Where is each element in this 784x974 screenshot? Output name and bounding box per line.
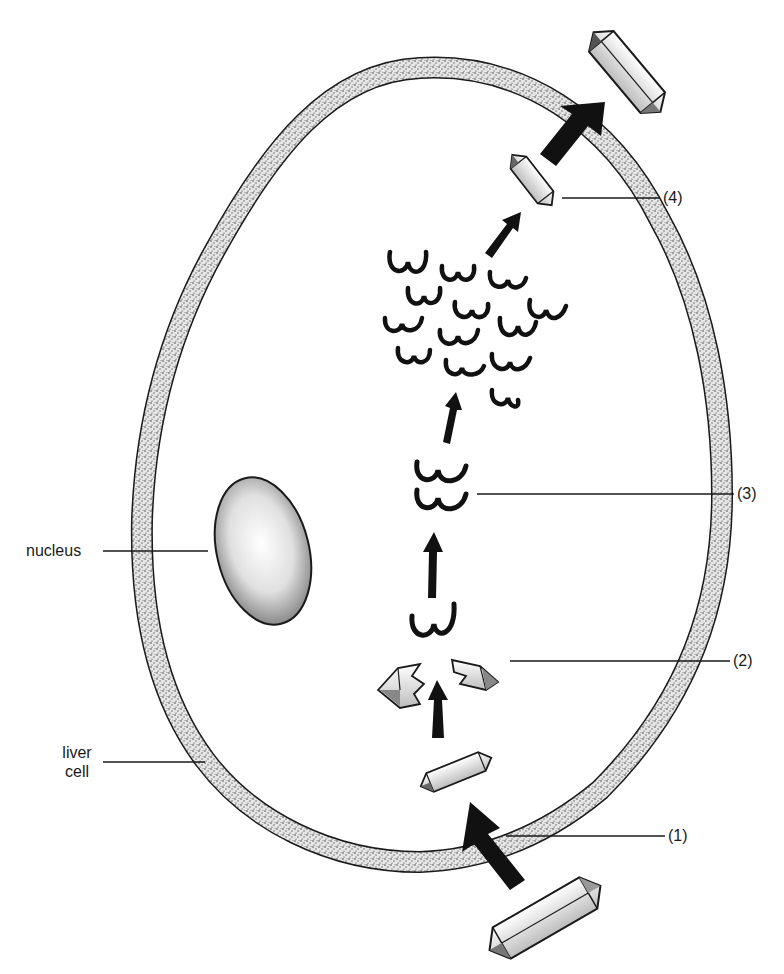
step2-label: (2)	[733, 651, 753, 670]
arrow-crystal-to-break	[428, 680, 448, 738]
cell-membrane	[142, 68, 722, 862]
released-chain	[412, 604, 454, 635]
liver-cell-label-line1: liver	[54, 743, 100, 762]
chain-pair	[417, 462, 466, 509]
step4-label: (4)	[663, 188, 683, 207]
broken-crystal-right	[452, 660, 498, 690]
broken-crystal-left	[378, 664, 424, 708]
arrow-many-to-crystal	[485, 212, 521, 258]
external-crystal	[481, 870, 610, 965]
nucleus-label: nucleus	[26, 541, 81, 560]
liver-cell-diagram	[0, 0, 784, 974]
liver-cell-label-line2: cell	[54, 762, 100, 781]
internal-crystal	[417, 748, 495, 795]
step1-label: (1)	[668, 826, 688, 845]
arrow-break-to-pair	[423, 532, 443, 598]
liver-cell-label: liver cell	[54, 743, 100, 781]
step3-label: (3)	[737, 484, 757, 503]
chain-cluster	[385, 252, 566, 407]
nucleus	[200, 467, 326, 635]
arrow-pair-to-many	[443, 392, 462, 444]
